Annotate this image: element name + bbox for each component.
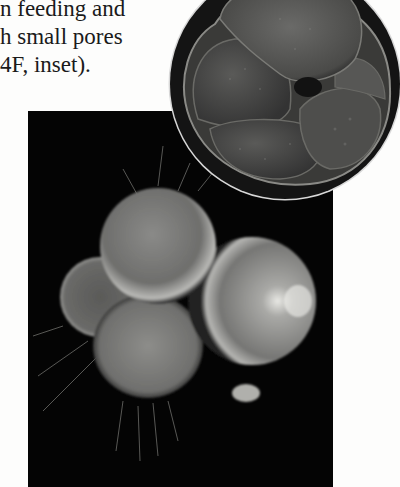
text-line-3: 4F, inset). xyxy=(0,51,125,79)
body-text: n feeding and h small pores 4F, inset). xyxy=(0,0,125,79)
text-line-1: n feeding and xyxy=(0,0,125,23)
text-line-2: h small pores xyxy=(0,23,125,51)
